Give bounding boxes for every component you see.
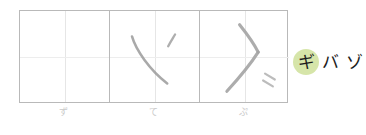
highlighted-character[interactable]: ギ [292,48,320,76]
annotation-following-text: バ ゾ [322,54,364,71]
stroke-bent-angle-upper [240,25,259,52]
cell-3-ink-layer [200,11,289,102]
stroke-bent-angle-lower [227,52,258,91]
cell-label-3: ぷ [198,106,288,118]
worksheet-canvas: ず て ぷ ギ バ ゾ [0,0,366,135]
stroke-short-upper-right-tick [168,34,175,46]
annotation-text: ギ バ ゾ [292,46,364,78]
cell-label-1: ず [19,106,108,118]
stroke-dakuten-mark-upper [265,74,275,80]
cell-2-ink-layer [110,11,199,102]
grid-cell-3[interactable] [199,11,289,102]
grid-cell-1[interactable] [20,11,109,102]
practice-grid [19,10,288,103]
cell-label-2: て [108,106,198,118]
stroke-dakuten-mark-lower [263,80,273,86]
cell-1-ink-layer [20,11,109,102]
grid-cell-2[interactable] [109,11,199,102]
annotation-char-highlighted: ギ [298,54,315,71]
stroke-long-diagonal-sweep [132,36,167,83]
